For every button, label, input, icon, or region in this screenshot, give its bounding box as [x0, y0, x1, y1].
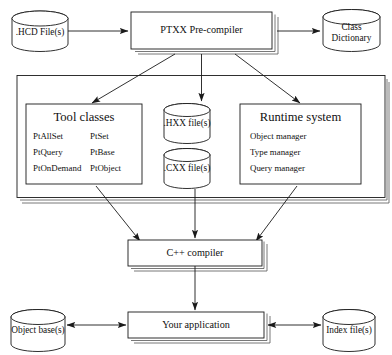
node-hxx-files: .HXX file(s): [164, 104, 211, 144]
node-class-dictionary-line1: Class: [341, 22, 362, 32]
node-object-bases: Object base(s): [11, 310, 65, 352]
node-object-bases-label: Object base(s): [11, 325, 64, 336]
runtime-item-object-manager: Object manager: [250, 131, 306, 141]
node-your-application: Your application: [128, 312, 270, 343]
tool-class-item-ptondemand: PtOnDemand: [33, 163, 82, 173]
runtime-item-type-manager: Type manager: [250, 147, 300, 157]
node-class-dictionary: Class Dictionary: [323, 10, 380, 52]
tool-class-item-ptbase: PtBase: [90, 147, 115, 157]
node-index-files: Index file(s): [323, 310, 375, 352]
node-hcd-files: .HCD File(s): [12, 11, 68, 52]
tool-class-item-ptobject: PtObject: [90, 163, 122, 173]
node-your-application-label: Your application: [162, 319, 230, 330]
node-runtime-system-heading: Runtime system: [260, 110, 342, 124]
diagram-canvas: .HCD File(s) PTXX Pre-compiler Class Dic…: [0, 0, 392, 355]
node-cxx-files: .CXX file(s): [164, 149, 210, 189]
architecture-diagram: .HCD File(s) PTXX Pre-compiler Class Dic…: [0, 0, 392, 355]
node-tool-classes-heading: Tool classes: [53, 110, 114, 124]
node-ptxx-precompiler-label: PTXX Pre-compiler: [160, 24, 243, 35]
node-ptxx-precompiler: PTXX Pre-compiler: [131, 12, 278, 54]
node-runtime-system: Runtime system Object manager Type manag…: [240, 104, 361, 184]
tool-class-item-ptallset: PtAllSet: [33, 131, 64, 141]
node-class-dictionary-line2: Dictionary: [332, 33, 372, 43]
runtime-item-query-manager: Query manager: [250, 163, 305, 173]
node-tool-classes: Tool classes PtAllSet PtQuery PtOnDemand…: [26, 104, 142, 184]
node-index-files-label: Index file(s): [326, 325, 372, 336]
tool-class-item-ptquery: PtQuery: [33, 147, 63, 157]
node-hcd-files-label: .HCD File(s): [16, 27, 65, 38]
node-cpp-compiler: C++ compiler: [128, 240, 267, 271]
node-cxx-files-label: .CXX file(s): [164, 163, 210, 174]
node-cpp-compiler-label: C++ compiler: [166, 247, 224, 258]
tool-class-item-ptset: PtSet: [90, 131, 109, 141]
node-hxx-files-label: .HXX file(s): [164, 118, 211, 129]
